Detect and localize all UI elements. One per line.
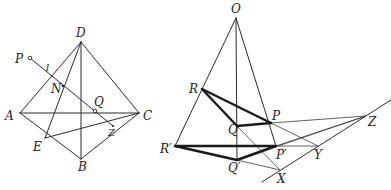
point-P [28, 56, 32, 60]
label-l: l [46, 62, 49, 73]
ray-O-P [236, 18, 276, 146]
label-C: C [143, 109, 152, 123]
line-EC [45, 113, 139, 138]
point-N [62, 85, 64, 87]
label-P: P [271, 109, 281, 123]
side-QpPp [237, 146, 276, 160]
label-E: E [32, 140, 42, 154]
label-X: X [276, 172, 286, 186]
side-RpQp [175, 146, 237, 160]
point-Q [93, 109, 97, 113]
edge-DC [81, 42, 139, 113]
label-Y: Y [314, 148, 323, 162]
label-R: R [188, 82, 198, 96]
ray-O-R [175, 18, 236, 146]
edge-AB [20, 113, 81, 159]
label-Q: Q [94, 95, 104, 109]
side-RQ [202, 89, 237, 126]
diagram-canvas: D A C B E Z N Q P l O R [0, 0, 391, 190]
label-A: A [4, 109, 14, 123]
label-N: N [50, 82, 62, 96]
label-Q: Q [228, 123, 238, 137]
axis-line-XYZ [262, 100, 391, 182]
label-O: O [231, 2, 241, 16]
label-P-prime: P′ [275, 148, 287, 162]
line-P-Z [271, 116, 366, 123]
desargues-figure: O R R′ Q Q′ P P′ Z Y X [159, 2, 391, 186]
label-Z: Z [367, 115, 377, 129]
label-P: P [14, 52, 24, 66]
label-Z: Z [107, 127, 116, 138]
label-B: B [77, 160, 87, 174]
tetrahedron-figure: D A C B E Z N Q P l [4, 26, 152, 174]
label-D: D [75, 26, 86, 40]
line-Qp-X [237, 160, 280, 170]
edge-DA [20, 42, 81, 113]
label-R-prime: R′ [159, 142, 172, 156]
side-QP [237, 123, 271, 126]
label-Q-prime: Q′ [228, 161, 241, 175]
ray-O-Q [236, 18, 237, 160]
